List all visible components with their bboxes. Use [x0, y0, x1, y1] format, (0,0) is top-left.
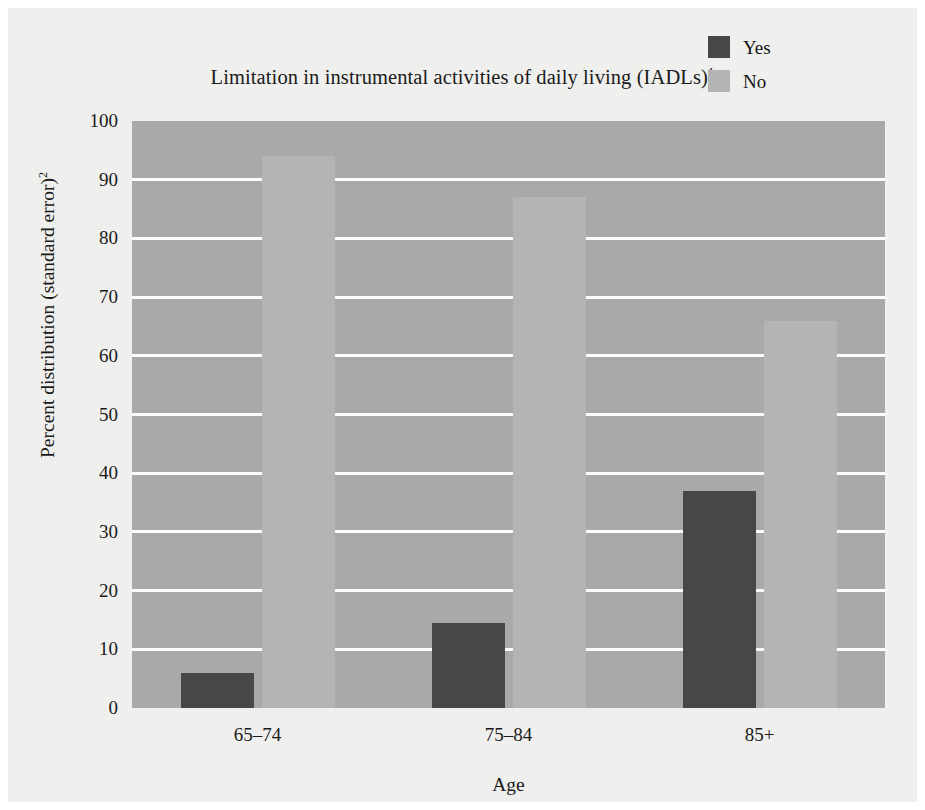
x-axis-tick-label: 65–74 [234, 724, 282, 746]
bar-no-2 [764, 321, 837, 708]
x-axis-title: Age [132, 774, 885, 796]
bar-no-1 [513, 197, 586, 708]
gridline [132, 237, 885, 240]
legend-label: Yes [743, 38, 771, 57]
chart-title: Limitation in instrumental activities of… [8, 66, 917, 89]
plot-area [132, 121, 885, 708]
bar-no-0 [262, 156, 335, 708]
chart-title-text: Limitation in instrumental activities of… [211, 66, 708, 88]
y-axis-tick-label: 60 [10, 345, 118, 367]
y-axis-tick-label: 70 [10, 286, 118, 308]
legend-item-no: No [708, 64, 771, 98]
bar-yes-2 [683, 491, 756, 708]
y-axis-tick-label: 80 [10, 227, 118, 249]
x-axis-tick-label: 75–84 [485, 724, 533, 746]
x-axis-tick-label: 85+ [745, 724, 775, 746]
legend-label: No [743, 72, 766, 91]
legend-swatch-icon [708, 36, 730, 58]
legend-swatch-icon [708, 70, 730, 92]
legend-item-yes: Yes [708, 30, 771, 64]
gridline [132, 296, 885, 299]
bar-yes-0 [181, 673, 254, 708]
bar-yes-1 [432, 623, 505, 708]
y-axis-tick-label: 50 [10, 404, 118, 426]
y-axis-tick-label: 40 [10, 462, 118, 484]
y-axis-tick-label: 10 [10, 638, 118, 660]
y-axis-tick-label: 0 [10, 697, 118, 719]
figure: Limitation in instrumental activities of… [8, 8, 917, 802]
legend: YesNo [708, 30, 771, 98]
y-axis-tick-label: 100 [10, 110, 118, 132]
y-axis-tick-label: 20 [10, 580, 118, 602]
gridline [132, 178, 885, 181]
y-axis-tick-label: 30 [10, 521, 118, 543]
y-axis-tick-label: 90 [10, 169, 118, 191]
